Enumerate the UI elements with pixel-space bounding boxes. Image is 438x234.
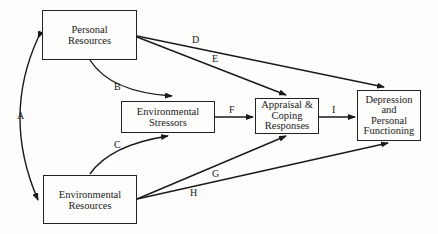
node-personal-resources: Personal Resources — [42, 10, 137, 60]
node-text: Stressors — [149, 117, 187, 128]
path-b — [90, 60, 172, 96]
path-e — [137, 37, 286, 95]
label-a: A — [17, 110, 24, 121]
node-environmental-stressors: Environmental Stressors — [121, 101, 215, 133]
node-text: Environmental — [59, 189, 121, 200]
node-text: Personal — [71, 24, 107, 35]
node-text: Functioning — [364, 126, 415, 137]
label-i: I — [332, 104, 335, 115]
label-b: B — [114, 81, 121, 92]
label-d: D — [192, 34, 199, 45]
label-e: E — [212, 53, 218, 64]
node-text: Resources — [68, 35, 111, 46]
node-appraisal-coping: Appraisal & Coping Responses — [255, 98, 319, 134]
node-text: Environmental — [137, 106, 199, 117]
node-text: Resources — [68, 200, 111, 211]
node-depression-functioning: Depression and Personal Functioning — [357, 90, 421, 141]
node-environmental-resources: Environmental Resources — [43, 175, 137, 224]
label-c: C — [114, 139, 121, 150]
label-f: F — [229, 104, 235, 115]
path-h — [137, 143, 388, 199]
node-text: and — [381, 105, 396, 116]
path-c — [90, 136, 168, 174]
path-d — [137, 36, 384, 87]
node-text: Responses — [265, 121, 309, 132]
label-h: H — [190, 187, 197, 198]
label-g: G — [212, 168, 219, 179]
